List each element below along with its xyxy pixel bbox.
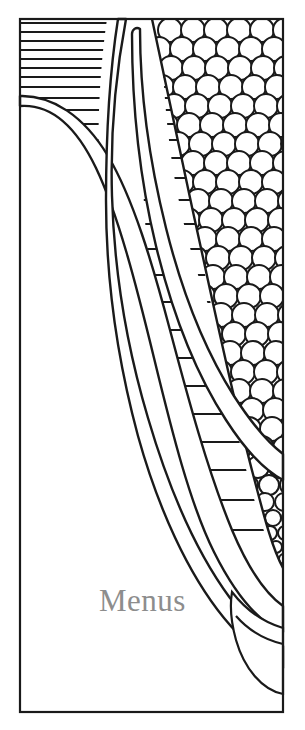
coloring-page: Menus <box>0 0 305 730</box>
corn-on-the-cob-illustration <box>0 0 305 730</box>
